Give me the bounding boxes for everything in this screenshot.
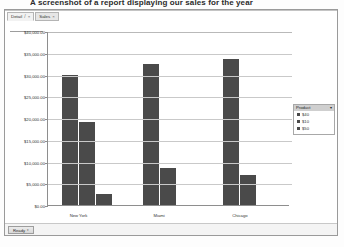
y-axis-tick-label: $30,000.00 xyxy=(24,73,45,78)
bar[interactable] xyxy=(62,75,78,206)
bar[interactable] xyxy=(223,59,239,205)
x-axis-label-group: New York xyxy=(47,208,128,222)
ready-button-label: Ready xyxy=(13,227,25,234)
y-axis-tick-label: $25,000.00 xyxy=(24,95,45,100)
legend-item-label: $50 xyxy=(302,126,309,131)
chart-legend[interactable]: Product ▾ $40$10$50 xyxy=(293,104,335,135)
gridline xyxy=(48,76,292,77)
y-axis-tick xyxy=(45,76,48,77)
y-axis-tick xyxy=(45,54,48,55)
tab-sales-close-icon[interactable]: × xyxy=(52,13,55,20)
tab-detail-label: Detail xyxy=(11,13,22,20)
caret-down-icon: ▾ xyxy=(27,227,29,234)
ready-button[interactable]: Ready ▾ xyxy=(8,226,34,234)
legend-item[interactable]: $50 xyxy=(294,125,334,132)
y-axis-tick-label: $0.00 xyxy=(35,204,45,209)
y-axis-labels: $40,000.00$35,000.00$30,000.00$25,000.00… xyxy=(7,32,47,224)
legend-item-label: $10 xyxy=(302,119,309,124)
y-axis-tick-label: $35,000.00 xyxy=(24,51,45,56)
report-chart-window: A screenshot of a report displaying our … xyxy=(0,0,344,247)
y-axis-tick xyxy=(45,119,48,120)
y-axis-tick xyxy=(45,163,48,164)
y-axis-tick-label: $5,000.00 xyxy=(26,182,45,187)
y-axis-tick-label: $20,000.00 xyxy=(24,117,45,122)
status-bar: Ready ▾ xyxy=(5,223,337,235)
gridline xyxy=(48,32,292,33)
y-axis-tick-label: $40,000.00 xyxy=(24,30,45,35)
gridline xyxy=(48,163,292,164)
y-axis-tick xyxy=(45,141,48,142)
chevron-down-icon[interactable]: ▾ xyxy=(330,105,332,111)
legend-swatch-icon xyxy=(297,127,300,130)
tab-strip: Detail / × Sales × xyxy=(7,12,59,21)
gridline xyxy=(48,119,292,120)
app-window: Detail / × Sales × Chart Area $40,000.00… xyxy=(4,9,338,236)
gridline xyxy=(48,54,292,55)
slash-icon: / xyxy=(24,13,25,20)
tab-sales-label: Sales xyxy=(39,13,50,20)
y-axis-tick xyxy=(45,184,48,185)
tab-sales[interactable]: Sales × xyxy=(35,12,59,21)
gridline xyxy=(48,141,292,142)
y-axis-tick-label: $10,000.00 xyxy=(24,160,45,165)
legend-item[interactable]: $40 xyxy=(294,111,334,118)
x-axis-label-group: Miami xyxy=(128,208,209,222)
window-top-edge xyxy=(5,10,337,11)
plot-area xyxy=(47,32,289,206)
legend-title-label: Product xyxy=(296,105,310,111)
x-axis-tick-label: New York xyxy=(62,208,96,219)
tab-detail-close-icon[interactable]: × xyxy=(28,13,31,20)
legend-swatch-icon xyxy=(297,113,300,116)
x-axis-tick-label: Chicago xyxy=(223,208,257,219)
legend-items: $40$10$50 xyxy=(294,111,334,132)
bar[interactable] xyxy=(96,194,112,205)
x-axis-labels: New YorkMiamiChicago xyxy=(47,208,289,222)
y-axis-tick xyxy=(45,97,48,98)
legend-item-label: $40 xyxy=(302,112,309,117)
y-axis-tick xyxy=(45,206,48,207)
legend-swatch-icon xyxy=(297,120,300,123)
bar[interactable] xyxy=(240,175,256,205)
bar[interactable] xyxy=(160,168,176,205)
figure-caption: A screenshot of a report displaying our … xyxy=(30,0,322,8)
tab-detail[interactable]: Detail / × xyxy=(7,12,34,21)
legend-item[interactable]: $10 xyxy=(294,118,334,125)
bar[interactable] xyxy=(79,122,95,205)
x-axis-tick-label: Miami xyxy=(142,208,176,219)
y-axis-tick xyxy=(45,32,48,33)
y-axis-tick-label: $15,000.00 xyxy=(24,138,45,143)
chart-canvas: $40,000.00$35,000.00$30,000.00$25,000.00… xyxy=(7,32,337,224)
gridline xyxy=(48,97,292,98)
gridline xyxy=(48,184,292,185)
x-axis-label-group: Chicago xyxy=(208,208,289,222)
